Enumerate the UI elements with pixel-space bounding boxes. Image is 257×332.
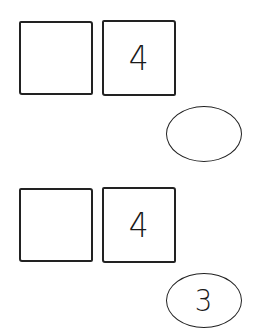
row1-number-box-value: 4 (129, 41, 149, 75)
row1-answer-oval (166, 106, 242, 162)
row1-empty-box (19, 21, 93, 95)
row1-number-box: 4 (102, 20, 176, 96)
row2-empty-box (19, 188, 93, 262)
row2-answer-oval: 3 (166, 273, 242, 328)
row2-answer-oval-value: 3 (195, 286, 213, 316)
row2-number-box-value: 4 (129, 208, 149, 242)
row2-number-box: 4 (102, 187, 176, 263)
